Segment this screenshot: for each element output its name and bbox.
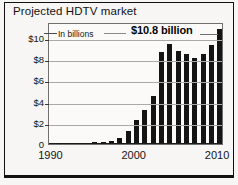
callout-leader-line [200,34,218,35]
x-axis-label: 2010 [205,149,229,161]
units-note-rule-right [104,33,126,34]
units-note-rule-left [44,33,57,34]
units-note: In billions [58,29,93,39]
x-axis-label: 1990 [38,149,62,161]
value-callout: $10.8 billion [131,24,193,36]
x-axis-labels: 199020002010 [0,0,238,185]
x-axis-label: 2000 [122,149,146,161]
chart-screenshot: Projected HDTV market $10$8$6$4$20 19902… [0,0,238,185]
